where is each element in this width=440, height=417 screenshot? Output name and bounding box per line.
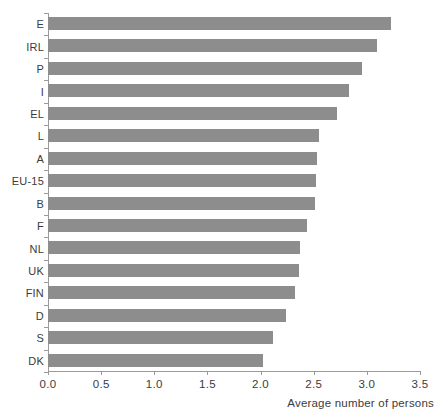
- x-tick-mark: [367, 371, 368, 375]
- x-tick-mark: [261, 371, 262, 375]
- y-tick-label-a: A: [2, 153, 44, 165]
- bar-nl: [48, 241, 300, 254]
- x-tick-mark: [420, 371, 421, 375]
- x-axis-title: Average number of persons: [287, 396, 434, 410]
- y-tick-label-b: B: [2, 198, 44, 210]
- bar-el: [48, 107, 337, 120]
- y-tick-label-s: S: [2, 332, 44, 344]
- x-tick-label-1.0: 1.0: [134, 377, 174, 391]
- x-tick-mark: [48, 371, 49, 375]
- y-tick-label-p: P: [2, 63, 44, 75]
- y-tick-label-uk: UK: [2, 265, 44, 277]
- y-tick-label-f: F: [2, 220, 44, 232]
- x-tick-label-2.0: 2.0: [241, 377, 281, 391]
- bar-d: [48, 309, 286, 322]
- bar-f: [48, 219, 307, 232]
- bar-i: [48, 84, 349, 97]
- x-tick-label-0.5: 0.5: [81, 377, 121, 391]
- y-tick-label-eu-15: EU-15: [2, 175, 44, 187]
- x-tick-label-1.5: 1.5: [187, 377, 227, 391]
- bar-irl: [48, 39, 377, 52]
- y-tick-label-irl: IRL: [2, 41, 44, 53]
- x-tick-label-3.0: 3.0: [347, 377, 387, 391]
- bar-e: [48, 17, 391, 30]
- bar-a: [48, 152, 317, 165]
- y-tick-label-l: L: [2, 130, 44, 142]
- x-tick-label-0.0: 0.0: [28, 377, 68, 391]
- x-tick-mark: [154, 371, 155, 375]
- bar-p: [48, 62, 362, 75]
- y-tick-label-d: D: [2, 310, 44, 322]
- y-tick-label-fin: FIN: [2, 287, 44, 299]
- bar-eu-15: [48, 174, 316, 187]
- y-tick-label-dk: DK: [2, 355, 44, 367]
- x-tick-label-3.5: 3.5: [400, 377, 440, 391]
- bar-dk: [48, 354, 263, 367]
- x-tick-mark: [314, 371, 315, 375]
- bar-fin: [48, 286, 295, 299]
- x-tick-mark: [207, 371, 208, 375]
- y-tick-label-nl: NL: [2, 243, 44, 255]
- plot-area: [48, 13, 420, 372]
- bar-chart: EIRLPIELLAEU-15BFNLUKFINDSDK Average num…: [0, 0, 440, 417]
- bar-b: [48, 197, 315, 210]
- y-axis-labels: EIRLPIELLAEU-15BFNLUKFINDSDK: [0, 13, 44, 372]
- x-tick-mark: [101, 371, 102, 375]
- bar-uk: [48, 264, 299, 277]
- y-tick-label-e: E: [2, 18, 44, 30]
- bar-l: [48, 129, 319, 142]
- y-tick-label-i: I: [2, 86, 44, 98]
- x-tick-label-2.5: 2.5: [294, 377, 334, 391]
- y-tick-label-el: EL: [2, 108, 44, 120]
- x-axis-line: [48, 371, 420, 372]
- bar-s: [48, 331, 273, 344]
